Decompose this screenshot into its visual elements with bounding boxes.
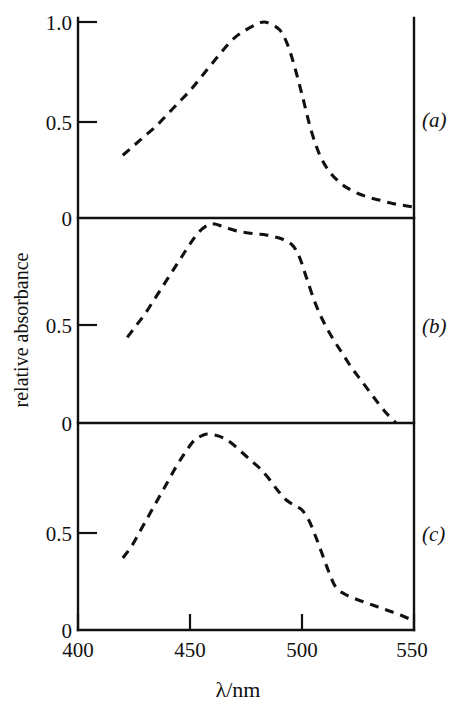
ytick-label-b-zero: 0 — [62, 412, 73, 436]
xtick-label-550: 550 — [396, 638, 428, 662]
xtick-label-500: 500 — [286, 638, 318, 662]
xtick-label-450: 450 — [174, 638, 206, 662]
axes-group — [78, 18, 414, 630]
spectrum-curve-b — [127, 224, 396, 423]
x-tick-labels: 400 450 500 550 — [62, 638, 428, 662]
y-tick-labels: 1.0 0.5 0 0.5 0 0.5 0 — [46, 11, 72, 643]
y-ticks-group — [78, 22, 97, 533]
ytick-label-a-mid: 0.5 — [46, 111, 72, 135]
x-axis-title: λ/nm — [216, 677, 261, 702]
spectrum-curve-c — [123, 434, 414, 621]
y-axis-title: relative absorbance — [10, 252, 32, 407]
ytick-label-a-zero: 0 — [62, 207, 73, 231]
x-ticks-group — [78, 614, 414, 630]
ytick-label-b-mid: 0.5 — [46, 314, 72, 338]
ytick-label-a-top: 1.0 — [46, 11, 72, 35]
xtick-label-400: 400 — [62, 638, 94, 662]
ytick-label-c-mid: 0.5 — [46, 522, 72, 546]
spectra-figure: 1.0 0.5 0 0.5 0 0.5 0 400 450 500 550 λ/… — [0, 0, 459, 714]
spectrum-curve-a — [123, 22, 414, 207]
panel-label-b: (b) — [422, 314, 447, 338]
panel-label-a: (a) — [422, 108, 447, 132]
panel-label-c: (c) — [422, 522, 445, 546]
spectra-plot-area: 1.0 0.5 0 0.5 0 0.5 0 400 450 500 550 λ/… — [0, 0, 459, 714]
